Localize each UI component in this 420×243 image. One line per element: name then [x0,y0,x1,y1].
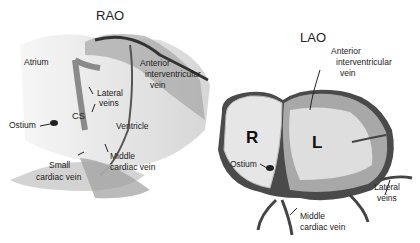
lao-lateral-veins-label-2: veins [377,193,397,203]
atrium-label: Atrium [24,57,49,67]
rao-ostium-label: Ostium [9,120,36,130]
lao-anterior-iv-label-2: interventricular [336,57,392,67]
lao-title: LAO [300,30,326,45]
rao-anterior-iv-label-1: Anterior [140,58,170,68]
small-cardiac-label-1: Small [49,160,70,170]
lao-anterior-iv-label-3: vein [340,68,356,78]
cs-label: CS [72,111,85,121]
lao-anterior-iv-label-1: Anterior [331,46,361,56]
left-ventricle-label: L [312,133,322,153]
rao-title: RAO [96,8,124,23]
ventricle-label: Ventricle [116,121,149,131]
rao-middle-cardiac-label-1: Middle [110,151,135,161]
lao-lateral-veins-label-1: Lateral [374,182,400,192]
coronary-vein-diagram: RAO LAO Atrium Anterior interventricular… [0,0,420,243]
diagram-artwork [0,0,420,243]
rao-middle-cardiac-label-2: cardiac vein [110,162,155,172]
lao-middle-cardiac-label-1: Middle [300,211,325,221]
small-cardiac-label-2: cardiac vein [36,172,81,182]
rao-lateral-veins-label-1: Lateral [97,88,123,98]
right-ventricle-label: R [246,128,258,148]
lao-middle-cardiac-label-2: cardiac vein [300,222,345,232]
rao-anterior-iv-label-3: vein [150,80,166,90]
rao-anterior-iv-label-2: interventricular [145,69,201,79]
rao-lateral-veins-label-2: veins [99,98,119,108]
lao-ostium-label: Ostium [230,159,257,169]
